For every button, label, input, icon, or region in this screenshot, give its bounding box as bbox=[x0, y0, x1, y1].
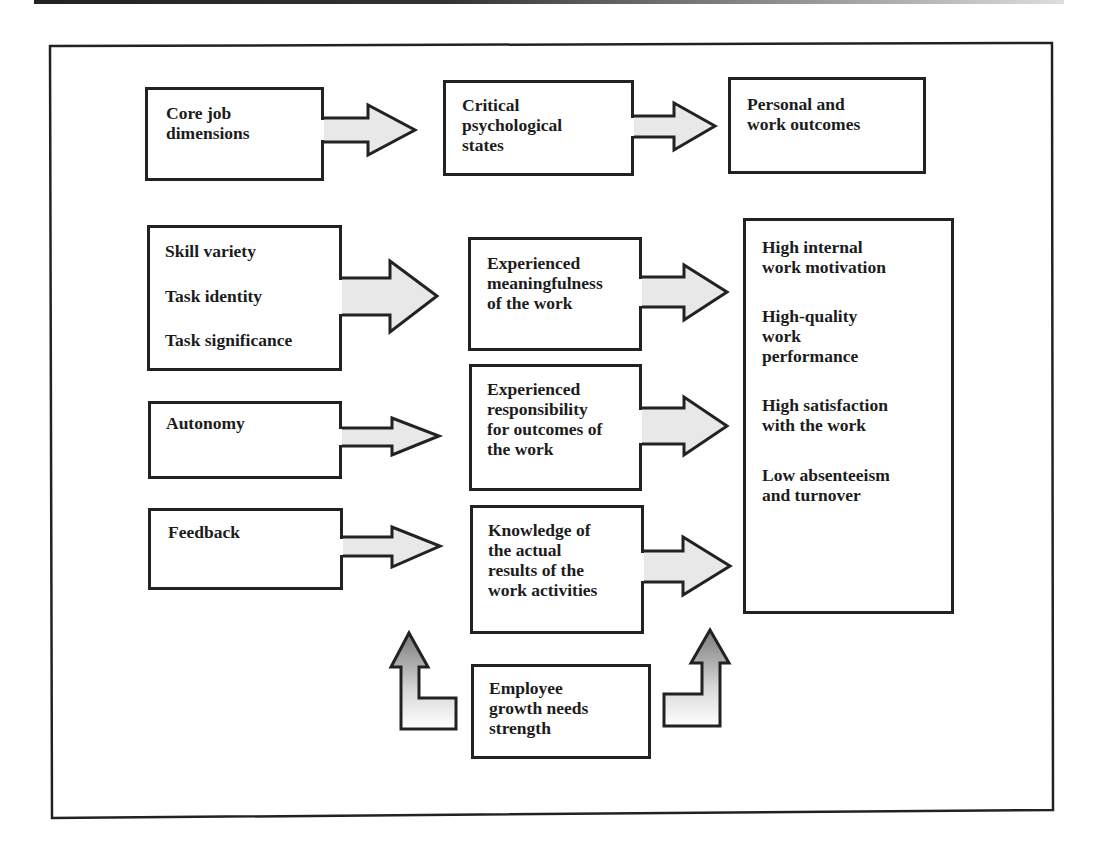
box-edge bbox=[631, 136, 634, 176]
box-edge bbox=[339, 225, 342, 280]
core-job-dimensions-label: Core job dimensions bbox=[166, 103, 250, 143]
box-edge bbox=[639, 443, 642, 491]
arrow-right-icon bbox=[340, 527, 440, 567]
critical-states-label: Critical psychological states bbox=[462, 95, 562, 155]
responsibility-label: Experienced responsibility for outcomes … bbox=[487, 379, 602, 459]
box-edge bbox=[339, 445, 342, 479]
autonomy-label: Autonomy bbox=[166, 413, 245, 433]
arrow-right-icon bbox=[641, 537, 730, 595]
box-edge bbox=[321, 140, 324, 181]
arrow-right-icon bbox=[339, 418, 439, 455]
outcome-motivation: High internal work motivation bbox=[762, 237, 886, 277]
arrow-right-icon bbox=[320, 105, 415, 155]
box-edge bbox=[639, 237, 642, 279]
arrow-up-icon bbox=[664, 630, 729, 726]
growth-needs-label: Employee growth needs strength bbox=[489, 678, 588, 738]
box-edge bbox=[321, 87, 324, 120]
skill-variety-label: Skill variety bbox=[165, 241, 256, 261]
box-edge bbox=[339, 401, 342, 429]
box-edge bbox=[641, 505, 644, 553]
feedback-label: Feedback bbox=[168, 522, 240, 542]
box-edge bbox=[641, 581, 644, 634]
task-identity-label: Task identity bbox=[165, 286, 262, 306]
box-edge bbox=[639, 364, 642, 410]
personal-outcomes-label: Personal and work outcomes bbox=[747, 94, 860, 134]
box-edge bbox=[339, 314, 342, 371]
box-edge bbox=[340, 555, 343, 590]
outcome-satisfaction: High satisfaction with the work bbox=[762, 395, 888, 435]
knowledge-label: Knowledge of the actual results of the w… bbox=[488, 520, 597, 600]
arrow-right-icon bbox=[631, 103, 715, 150]
arrow-right-icon bbox=[639, 397, 727, 455]
arrow-up-icon bbox=[391, 633, 456, 729]
outcome-absenteeism: Low absenteeism and turnover bbox=[762, 465, 890, 505]
arrow-right-icon bbox=[639, 265, 727, 320]
feedback-box bbox=[148, 508, 343, 590]
task-significance-label: Task significance bbox=[165, 330, 292, 350]
box-edge bbox=[631, 80, 634, 118]
outcome-performance: High-quality work performance bbox=[762, 306, 858, 366]
meaningfulness-label: Experienced meaningfulness of the work bbox=[487, 253, 603, 313]
arrow-right-icon bbox=[339, 261, 437, 332]
box-edge bbox=[340, 508, 343, 539]
box-edge bbox=[639, 306, 642, 351]
